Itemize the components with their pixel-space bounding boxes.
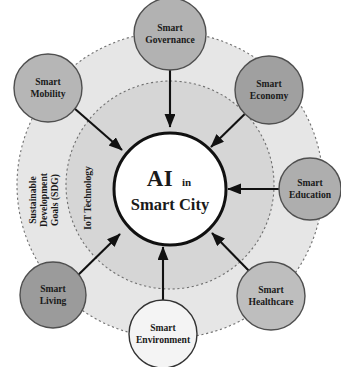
- node-smart-mobility[interactable]: Smart Mobility: [14, 54, 82, 122]
- node-smart-education[interactable]: Smart Education: [279, 158, 341, 220]
- core-label-smart-city: Smart City: [131, 195, 210, 214]
- node-smart-education-line2: Education: [289, 189, 332, 200]
- node-smart-governance-line2: Governance: [145, 34, 195, 45]
- core-label-in: in: [182, 176, 191, 188]
- node-smart-environment[interactable]: Smart Environment: [129, 300, 197, 367]
- ring-iot-label-line1: IoT Technology: [82, 166, 93, 230]
- node-smart-environment-line1: Smart: [150, 322, 176, 333]
- ring-iot-label: IoT Technology: [82, 166, 93, 230]
- node-smart-living[interactable]: Smart Living: [20, 262, 86, 328]
- node-smart-education-line1: Smart: [297, 177, 323, 188]
- node-smart-living-line2: Living: [40, 295, 67, 306]
- node-smart-environment-line2: Environment: [136, 334, 191, 345]
- smart-city-diagram: Sustainable Development Goals (SDG) IoT …: [0, 0, 341, 367]
- ring-sdg-label-line3: Goals (SDG): [49, 174, 61, 226]
- ring-sdg-label-line1: Sustainable: [27, 176, 38, 224]
- node-smart-healthcare-line1: Smart: [258, 284, 284, 295]
- node-smart-healthcare-line2: Healthcare: [248, 296, 294, 307]
- ring-sdg-label: Sustainable Development Goals (SDG): [27, 172, 61, 227]
- core-label-ai: AI: [147, 166, 174, 191]
- node-smart-mobility-line1: Smart: [35, 76, 61, 87]
- node-smart-governance-line1: Smart: [157, 22, 183, 33]
- node-smart-economy-line1: Smart: [256, 78, 282, 89]
- diagram-canvas: Sustainable Development Goals (SDG) IoT …: [0, 0, 341, 367]
- node-smart-living-line1: Smart: [40, 283, 66, 294]
- node-smart-economy-line2: Economy: [250, 90, 289, 101]
- node-smart-healthcare[interactable]: Smart Healthcare: [237, 262, 305, 330]
- node-smart-economy[interactable]: Smart Economy: [235, 56, 303, 124]
- node-smart-mobility-line2: Mobility: [30, 88, 65, 99]
- ring-sdg-label-line2: Development: [38, 172, 49, 227]
- node-smart-governance[interactable]: Smart Governance: [134, 0, 206, 70]
